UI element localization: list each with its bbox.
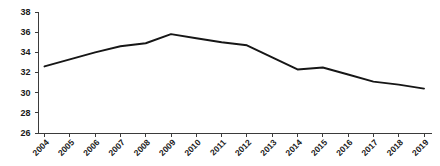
y-tick-label: 38: [20, 7, 30, 17]
x-tick-label: 2005: [56, 137, 77, 158]
y-tick-label: 36: [20, 27, 30, 37]
x-tick-label: 2014: [283, 137, 304, 158]
y-tick-label: 30: [20, 88, 30, 98]
x-tick-label: 2019: [410, 137, 431, 158]
x-tick-label: 2016: [334, 137, 355, 158]
y-tick-label: 34: [20, 47, 30, 57]
x-tick-label: 2004: [30, 137, 51, 158]
x-tick-label: 2010: [182, 137, 203, 158]
line-chart: 26283032343638 2004200520062007200820092…: [0, 0, 440, 166]
x-tick-label: 2006: [81, 137, 102, 158]
y-tick-label: 28: [20, 108, 30, 118]
x-tick-label: 2008: [132, 137, 153, 158]
x-tick-label: 2017: [359, 137, 380, 158]
chart-canvas: 26283032343638 2004200520062007200820092…: [0, 0, 440, 166]
y-tick-label: 32: [20, 67, 30, 77]
x-tick-label: 2018: [385, 137, 406, 158]
data-line-series-1: [45, 34, 425, 88]
y-tick-label: 26: [20, 128, 30, 138]
y-tick-group: 26283032343638: [20, 7, 38, 138]
x-tick-label: 2012: [233, 137, 254, 158]
x-tick-label-group: 2004200520062007200820092010201120122013…: [30, 137, 430, 158]
x-tick-label: 2009: [157, 137, 178, 158]
x-tick-label: 2015: [309, 137, 330, 158]
x-tick-label: 2013: [258, 137, 279, 158]
x-tick-label: 2011: [208, 137, 228, 157]
x-tick-label: 2007: [106, 137, 127, 158]
data-series-group: [45, 34, 425, 88]
